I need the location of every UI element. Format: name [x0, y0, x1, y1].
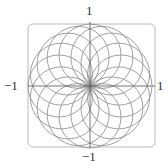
x-tick-left: −1	[4, 79, 18, 92]
rosette-plot	[0, 0, 168, 168]
y-tick-bottom: −1	[82, 150, 96, 163]
x-tick-right: 1	[157, 79, 164, 92]
y-tick-top: 1	[86, 4, 93, 17]
rosette-circle	[88, 67, 150, 129]
